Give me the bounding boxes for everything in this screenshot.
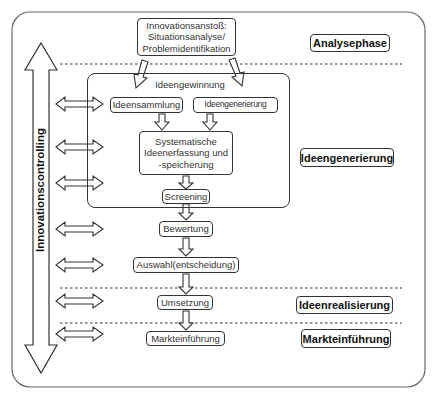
ideengewinnung-title: Ideengewinnung [140, 79, 240, 90]
double-arrow-icon [56, 327, 103, 341]
phase-ideengenerierung: Ideengenerierung [300, 148, 394, 167]
down-arrow-icon [179, 274, 193, 294]
systematische-erfassung-box: Systematische Ideenerfassung und -speich… [139, 131, 233, 175]
down-arrow-icon [179, 311, 193, 330]
auswahl-box: Auswahl(entscheidung) [133, 257, 239, 273]
phase-analysephase: Analysephase [310, 34, 390, 52]
innovationsanstoss-box: Innovationsanstoß: Situationsanalyse/ Pr… [137, 18, 236, 56]
double-arrow-icon [56, 258, 103, 272]
bewertung-box: Bewertung [159, 221, 213, 237]
innovationscontrolling-label: Innovationscontrolling [34, 125, 48, 255]
ideengenerierung-box: Ideengenerierung [193, 97, 278, 113]
down-arrow-icon [179, 238, 193, 256]
umsetzung-box: Umsetzung [157, 295, 213, 310]
markteinfuehrung-box: Markteinführung [146, 331, 225, 346]
double-arrow-icon [56, 222, 103, 236]
screening-box: Screening [162, 189, 210, 204]
phase-markteinfuehrung: Markteinführung [301, 329, 391, 348]
phase-ideenrealisierung: Ideenrealisierung [296, 296, 393, 314]
ideensammlung-box: Ideensammlung [110, 97, 183, 113]
double-arrow-icon [56, 294, 103, 308]
